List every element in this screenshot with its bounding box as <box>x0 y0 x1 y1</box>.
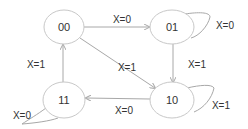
transition-00-to-10: X=1 <box>80 38 155 88</box>
state-01: 01 <box>150 10 194 44</box>
state-10: 10 <box>150 82 194 118</box>
transition-label: X=1 <box>212 100 231 111</box>
transition-label: X=1 <box>188 59 207 70</box>
transition-label: X=0 <box>13 110 32 121</box>
state-11: 11 <box>43 82 85 118</box>
state-label: 10 <box>166 94 178 106</box>
state-label: 11 <box>58 94 69 106</box>
transition-00-to-01: X=0 <box>84 14 149 28</box>
transition-01-to-10: X=1 <box>173 44 206 82</box>
state-00: 00 <box>44 10 84 44</box>
transition-11-to-00: X=1 <box>27 45 63 83</box>
transition-label: X=0 <box>113 14 132 25</box>
state-label: 00 <box>58 21 70 33</box>
transition-label: X=0 <box>216 20 235 31</box>
state-diagram: X=0 X=0 X=1 X=1 X=1 X=0 X=1 X=0 00 <box>0 0 248 129</box>
transition-label: X=1 <box>118 62 137 73</box>
transition-label: X=1 <box>27 59 46 70</box>
transition-10-to-11: X=0 <box>86 98 150 116</box>
transition-label: X=0 <box>115 105 134 116</box>
state-label: 01 <box>166 21 178 33</box>
